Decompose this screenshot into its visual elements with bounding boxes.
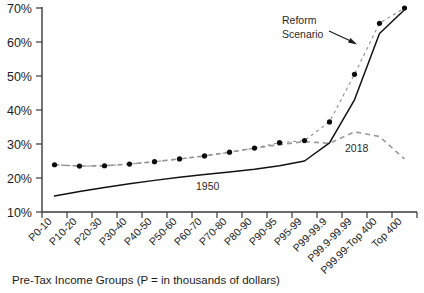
y-axis-ticks [36,8,42,212]
data-point-reform-scenario [202,153,207,158]
data-point-reform-scenario [127,161,132,166]
x-axis-tick-labels: P0-10P10-20P20-30P30-40P40-50P50-60P60-7… [26,215,404,276]
y-axis-tick-labels: 70% 60% 50% 40% 30% 20% 10% [7,2,32,220]
series-line-1950 [55,10,405,196]
data-point-reform-scenario [77,164,82,169]
y-tick-label: 60% [7,36,32,50]
reform-scenario-annotation-line1: Reform [282,14,317,26]
data-point-reform-scenario [152,159,157,164]
data-point-reform-scenario [227,150,232,155]
data-point-reform-scenario [402,5,407,10]
x-axis-title: Pre-Tax Income Groups (P = in thousands … [12,274,280,286]
x-axis-ticks [42,212,417,218]
reform-scenario-annotation-line2: Scenario [282,28,324,40]
chart-plot: 70% 60% 50% 40% 30% 20% 10% P0-10P10-20P… [0,0,424,293]
chart-container: 70% 60% 50% 40% 30% 20% 10% P0-10P10-20P… [0,0,424,293]
data-point-reform-scenario [277,140,282,145]
series-label-2018: 2018 [345,142,369,154]
data-point-reform-scenario [352,72,357,77]
y-tick-label: 30% [7,138,32,152]
y-tick-label: 70% [7,2,32,16]
series-label-1950: 1950 [196,180,220,192]
data-point-reform-scenario [252,145,257,150]
y-tick-label: 50% [7,70,32,84]
data-point-reform-scenario [52,162,57,167]
y-tick-label: 20% [7,172,32,186]
data-point-reform-scenario [102,163,107,168]
y-tick-label: 10% [7,206,32,220]
reform-scenario-annotation-arrow-head [348,38,357,45]
data-point-reform-scenario [377,21,382,26]
data-point-reform-scenario [327,119,332,124]
y-tick-label: 40% [7,104,32,118]
data-point-reform-scenario [302,138,307,143]
reform-scenario-annotation: Reform Scenario [282,14,357,45]
data-point-reform-scenario [177,156,182,161]
